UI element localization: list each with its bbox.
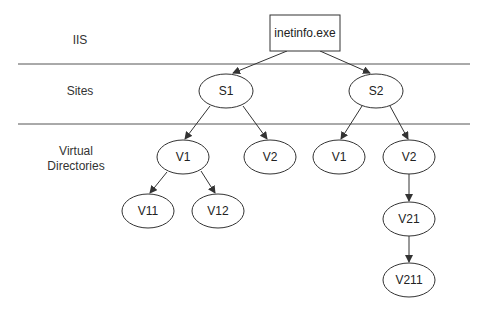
- node-s1: S1: [199, 74, 253, 108]
- node-v21: V21: [383, 202, 435, 236]
- svg-text:V21: V21: [398, 212, 420, 226]
- svg-text:inetinfo.exe: inetinfo.exe: [274, 26, 336, 40]
- node-s1-v2: V2: [244, 140, 296, 174]
- svg-text:V2: V2: [402, 150, 417, 164]
- svg-text:V12: V12: [207, 204, 229, 218]
- svg-text:S1: S1: [219, 84, 234, 98]
- svg-text:V2: V2: [263, 150, 278, 164]
- node-s2: S2: [349, 74, 403, 108]
- svg-text:V1: V1: [332, 150, 347, 164]
- svg-text:S2: S2: [369, 84, 384, 98]
- node-inetinfo: inetinfo.exe: [270, 15, 340, 51]
- node-s2-v1: V1: [313, 140, 365, 174]
- svg-text:V11: V11: [138, 204, 159, 218]
- node-s1-v1: V1: [157, 140, 209, 174]
- node-s2-v2: V2: [383, 140, 435, 174]
- node-v211: V211: [383, 263, 435, 297]
- svg-text:V1: V1: [176, 150, 191, 164]
- node-v12: V12: [192, 194, 244, 228]
- hierarchy-diagram: inetinfo.exe S1 S2 V1 V2 V1 V2 V11 V12 V…: [0, 0, 486, 314]
- node-v11: V11: [122, 194, 174, 228]
- svg-text:V211: V211: [395, 273, 422, 287]
